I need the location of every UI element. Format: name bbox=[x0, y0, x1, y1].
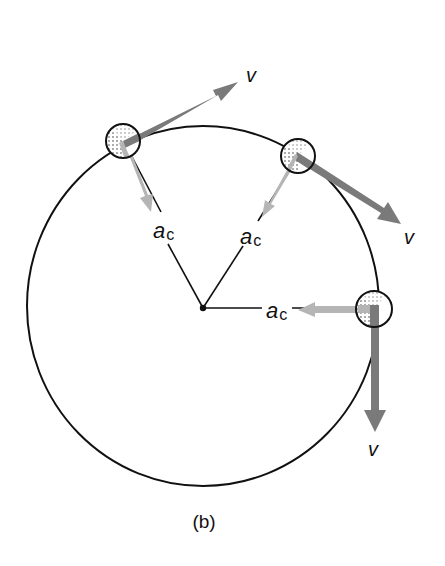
accel-label-3: ac bbox=[266, 298, 287, 323]
body-right: v ac bbox=[266, 286, 392, 460]
accel-arrow-2 bbox=[262, 170, 290, 217]
body-upper-left: v ac bbox=[106, 64, 257, 243]
figure-caption: (b) bbox=[192, 511, 215, 532]
velocity-label-2: v bbox=[404, 226, 415, 248]
accel-label-2: ac bbox=[240, 224, 261, 249]
radius-line-1 bbox=[168, 244, 203, 308]
radius-line-2 bbox=[203, 246, 243, 308]
body-upper-right: v ac bbox=[240, 135, 415, 249]
accel-arrow-1 bbox=[127, 149, 153, 212]
center-point bbox=[200, 305, 206, 311]
velocity-label-3: v bbox=[368, 438, 379, 460]
accel-label-1: ac bbox=[153, 218, 174, 243]
circular-motion-diagram: v ac v ac v ac (b) bbox=[0, 0, 445, 566]
velocity-label-1: v bbox=[246, 64, 257, 86]
